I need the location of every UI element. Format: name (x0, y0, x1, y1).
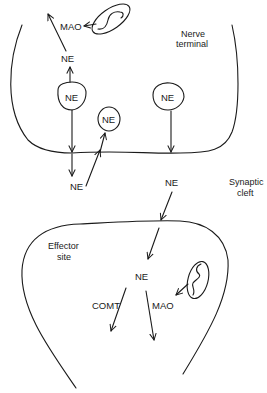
arrow-mito-to-mao-effector (176, 284, 188, 295)
cleft-label-line2: cleft (237, 188, 254, 198)
comt-label: COMT (92, 300, 120, 311)
synapse-diagram: MAO NE Nerve terminal NE NE NE NE Synapt… (0, 0, 267, 393)
vesicle-small-label: NE (102, 114, 115, 125)
effector-label-line1: Effector (48, 241, 79, 251)
vesicle-left-label: NE (65, 92, 78, 103)
ne-cleft-right-label: NE (165, 177, 178, 188)
mao-top-label: MAO (60, 21, 82, 32)
mitochondrion-icon (87, 0, 135, 40)
ne-cleft-left-label: NE (70, 181, 83, 192)
arrow-ne-to-mao (48, 14, 66, 51)
arrow-ne-mao (146, 291, 154, 340)
ne-cytoplasm-label: NE (61, 53, 74, 64)
arrow-reuptake-vesicle (100, 133, 105, 152)
effector-label-line2: site (57, 252, 71, 262)
vesicle-right: NE (153, 83, 184, 110)
vesicle-small: NE (98, 107, 120, 131)
arrow-mito-to-mao (84, 24, 96, 26)
nerve-label-line1: Nerve (181, 29, 205, 39)
mao-effector-label: MAO (152, 300, 174, 311)
ne-effector-label: NE (135, 271, 148, 282)
arrow-ne-to-receptor (161, 192, 172, 220)
nerve-label-line2: terminal (176, 39, 208, 49)
cleft-label-line1: Synaptic (229, 177, 264, 187)
arrow-reuptake-membrane (86, 150, 100, 186)
mitochondrion-effector-icon (183, 259, 212, 301)
vesicle-left: NE (58, 82, 86, 110)
vesicle-right-label: NE (161, 92, 174, 103)
arrow-into-effector (148, 228, 159, 259)
